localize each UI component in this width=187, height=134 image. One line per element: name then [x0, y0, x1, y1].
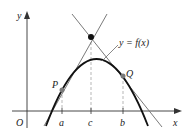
- point-P-label: P: [51, 79, 58, 90]
- tick-label-a: a: [59, 117, 64, 128]
- tick-label-b: b: [120, 117, 125, 128]
- curve-label-leader: [102, 45, 118, 61]
- x-axis-arrow-icon: [174, 108, 182, 114]
- dashed-guides: [62, 37, 123, 111]
- axes: [12, 11, 182, 128]
- tick-label-c: c: [88, 117, 93, 128]
- point-Q: [121, 74, 126, 79]
- y-axis-label: y: [16, 10, 22, 21]
- point-Q-label: Q: [126, 68, 134, 79]
- curve-label: y = f(x): [118, 37, 150, 49]
- point-P: [60, 88, 65, 93]
- origin-label: O: [16, 117, 23, 128]
- x-axis-label: x: [172, 117, 178, 128]
- y-axis-arrow-icon: [24, 11, 30, 19]
- tangent-intersection-point: [88, 34, 94, 40]
- tangent-lines-diagram: y = f(x) P Q y x O a c b: [0, 0, 187, 134]
